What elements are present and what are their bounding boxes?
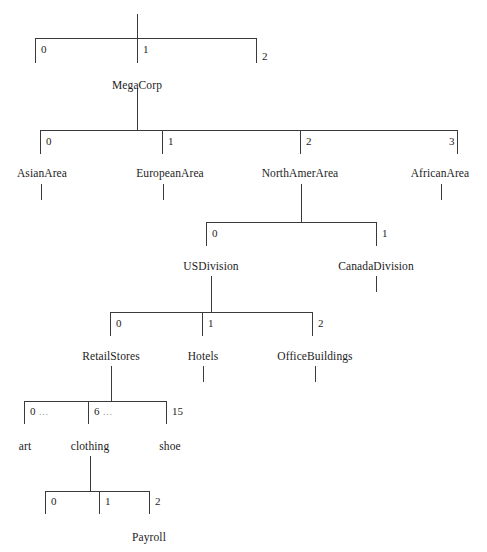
index-label-level3-slot1: 1 [208,318,214,329]
index-label-level4-slot15: 15 [172,406,183,417]
ellipsis-icon: … [36,406,50,417]
index-value: 0 [30,405,36,417]
node-megacorp[interactable]: MegaCorp [112,79,162,91]
tree-lines-svg [0,0,487,552]
level-2-lines [206,200,377,292]
index-label-level3-slot0: 0 [116,318,122,329]
node-shoe[interactable]: shoe [159,440,180,452]
level-4-lines [24,382,167,472]
level-5-lines [45,472,150,514]
index-label-level1-slot3: 3 [449,136,455,147]
hierarchy-tree-diagram: 0 1 2 MegaCorp 0 1 2 3 AsianArea Europea… [0,0,487,552]
node-europeanarea[interactable]: EuropeanArea [136,167,204,179]
node-clothing[interactable]: clothing [71,440,110,452]
node-hotels[interactable]: Hotels [188,350,219,362]
index-label-level5-slot2: 2 [155,496,161,507]
index-label-level1-slot2: 2 [306,136,312,147]
node-payroll[interactable]: Payroll [132,531,166,543]
index-label-level1-slot1: 1 [168,136,174,147]
index-value: 6 [94,405,100,417]
index-label-level1-slot0: 0 [46,136,52,147]
index-label-level5-slot0: 0 [51,496,57,507]
node-northamerarea[interactable]: NorthAmerArea [262,167,339,179]
node-asianarea[interactable]: AsianArea [17,167,67,179]
index-label-level0-slot2: 2 [262,51,268,62]
index-label-level3-slot2: 2 [318,318,324,329]
node-canadadivision[interactable]: CanadaDivision [338,260,414,272]
index-label-level2-slot1: 1 [382,228,388,239]
node-art[interactable]: art [19,440,31,452]
index-label-level4-slot0: 0… [30,406,50,417]
node-africanarea[interactable]: AfricanArea [411,167,470,179]
index-label-level2-slot0: 0 [212,228,218,239]
index-label-level5-slot1: 1 [105,496,111,507]
level-3-lines [110,292,316,382]
level-1-lines [40,96,458,200]
ellipsis-icon: … [100,406,114,417]
node-usdivision[interactable]: USDivision [183,260,238,272]
index-label-level0-slot0: 0 [41,44,47,55]
node-retailstores[interactable]: RetailStores [82,350,139,362]
index-label-level0-slot1: 1 [143,44,149,55]
index-label-level4-slot6: 6… [94,406,114,417]
node-officebuildings[interactable]: OfficeBuildings [277,350,352,362]
